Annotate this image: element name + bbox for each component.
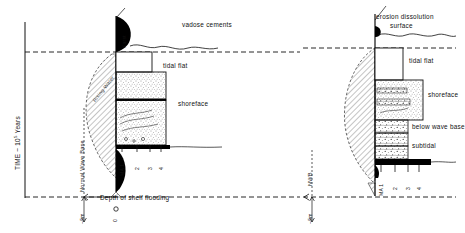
- left-ma-tick-3: 3: [148, 167, 153, 170]
- left-origin-label: 0: [113, 219, 118, 222]
- right-nwb-label: NWB: [308, 172, 314, 186]
- left-depth-of-shelf-flooding-label: Depth of shelf flooding: [100, 195, 169, 201]
- left-facies-shoreface-label: shoreface: [178, 101, 208, 107]
- right-erosion-surface-label-line1: erosion dissolution: [376, 14, 434, 20]
- left-vadose-cements-label: vadose cements: [182, 22, 232, 28]
- right-erosion-surface-label-line2: surface: [390, 23, 413, 29]
- left-ma-tick-2: 2: [135, 167, 140, 170]
- right-facies-shoreface-label: shoreface: [428, 92, 458, 98]
- right-facies-below-wave-base-label: below wave base: [412, 124, 465, 130]
- time-axis-unit: Years: [14, 116, 21, 133]
- right-ma-tick-4: 4: [417, 187, 422, 190]
- left-ma-tick-4: 4: [159, 167, 164, 170]
- left-normal-wave-base-label: Normal Wave Base: [80, 140, 86, 192]
- time-axis-exponent: 5: [13, 135, 18, 138]
- right-ma-tick-2: 2: [393, 187, 398, 190]
- right-facies-tidal-flat-label: tidal flat: [409, 58, 434, 64]
- right-depth-scale-label: ~5m: [308, 213, 313, 224]
- left-ma-tick-1: MA 1: [120, 164, 125, 176]
- left-karst-label: Karst: [122, 35, 127, 48]
- time-axis-label: TIME ~ 105 Years: [14, 116, 22, 170]
- right-ma-tick-3: 3: [406, 187, 411, 190]
- right-facies-subtidal-label: subtidal: [412, 143, 436, 149]
- time-axis-text: TIME ~ 10: [14, 138, 21, 170]
- left-depth-scale-label: ~5m: [80, 213, 85, 224]
- right-ma-tick-1: MA 1: [379, 184, 384, 196]
- left-facies-tidal-flat-label: tidal flat: [163, 63, 188, 69]
